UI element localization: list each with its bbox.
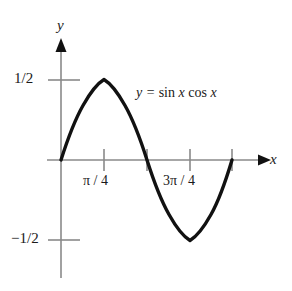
equation-var-2: x (210, 85, 216, 100)
x-axis-label: x (270, 152, 277, 167)
y-axis-tick-label-half: 1/2 (14, 71, 33, 86)
equation-cos: cos (188, 85, 207, 100)
y-axis-tick-label-negative-half: −1/2 (11, 231, 39, 246)
plot-canvas (0, 0, 292, 291)
x-axis-tick-label-pi-over-4: π / 4 (83, 174, 108, 188)
equation-lhs: y = (136, 85, 155, 100)
equation-sin: sin (159, 85, 175, 100)
equation-var-1: x (179, 85, 185, 100)
equation-annotation: y = sin x cos x (136, 86, 217, 100)
x-axis-tick-label-3pi-over-4: 3π / 4 (163, 174, 195, 188)
y-axis-label: y (57, 18, 64, 33)
y-axis-arrowhead (56, 38, 67, 52)
graph-figure: 1/2 −1/2 π / 4 3π / 4 y x y = sin x cos … (0, 0, 292, 291)
